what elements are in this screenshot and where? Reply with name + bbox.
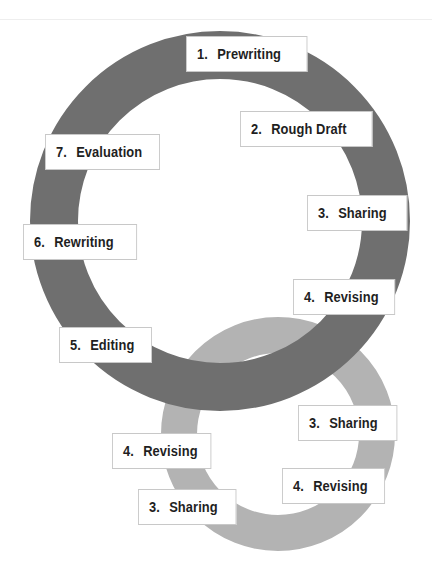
step-label: Revising [313, 478, 367, 494]
step-number: 6. [34, 234, 45, 250]
step-label: Editing [90, 337, 134, 353]
step-number: 4. [304, 289, 315, 305]
step-number: 3. [318, 205, 329, 221]
step-evaluation: 7. Evaluation [45, 134, 160, 170]
step-number: 3. [309, 415, 320, 431]
sub-step-revising-right: 4. Revising [282, 468, 385, 504]
sub-step-sharing-right: 3. Sharing [298, 405, 397, 441]
step-label: Sharing [169, 499, 218, 515]
step-number: 3. [149, 499, 160, 515]
step-number: 4. [123, 443, 134, 459]
step-number: 7. [56, 144, 67, 160]
step-label: Revising [324, 289, 378, 305]
step-label: Sharing [338, 205, 387, 221]
step-number: 2. [251, 121, 262, 137]
step-label: Rough Draft [271, 121, 346, 137]
step-label: Sharing [329, 415, 378, 431]
sub-step-sharing-left: 3. Sharing [138, 489, 236, 525]
step-label: Evaluation [76, 144, 142, 160]
step-prewriting: 1. Prewriting [186, 36, 307, 72]
step-rough-draft: 2. Rough Draft [240, 111, 372, 147]
step-number: 5. [70, 337, 81, 353]
step-label: Prewriting [217, 46, 281, 62]
step-number: 4. [293, 478, 304, 494]
step-rewriting: 6. Rewriting [23, 224, 137, 260]
step-revising: 4. Revising [293, 279, 395, 315]
step-editing: 5. Editing [59, 327, 152, 363]
sub-step-revising-left: 4. Revising [112, 433, 211, 469]
step-label: Revising [143, 443, 197, 459]
step-sharing: 3. Sharing [307, 195, 407, 231]
step-number: 1. [197, 46, 208, 62]
step-label: Rewriting [54, 234, 114, 250]
